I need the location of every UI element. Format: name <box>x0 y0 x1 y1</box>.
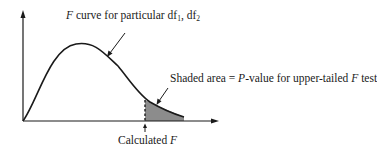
calculated-f-arrowhead-icon <box>143 124 147 129</box>
x-axis-arrowhead-icon <box>211 119 219 124</box>
shaded-area-label: Shaded area = P-value for upper-tailed F… <box>170 73 377 85</box>
shade-pointer-arrowhead-icon <box>157 99 162 106</box>
shaded-label-part3: test <box>358 72 377 84</box>
curve-label-sub2: 2 <box>196 14 200 23</box>
y-axis-arrowhead-icon <box>21 10 26 18</box>
calculated-f-label: Calculated F <box>118 135 177 147</box>
curve-label-text: curve for particular df <box>73 9 177 21</box>
curve-label: F curve for particular df1, df2 <box>66 10 200 22</box>
curve-label-sep: , df <box>181 9 196 21</box>
curve-label-f: F <box>66 9 73 21</box>
shaded-label-part1: Shaded area = <box>170 72 238 84</box>
shaded-label-part2: -value for upper-tailed <box>245 72 351 84</box>
calculated-f-italic: F <box>170 134 177 146</box>
curve-pointer-line <box>110 33 125 53</box>
shade-pointer-line <box>159 88 168 101</box>
calculated-f-text: Calculated <box>118 134 170 146</box>
